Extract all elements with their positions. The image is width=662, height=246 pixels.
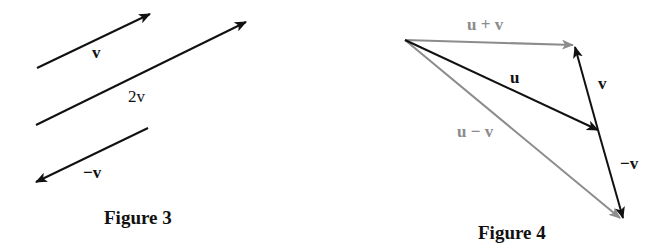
vector-v-arrow-fig4 [575,47,598,130]
figure-4 [405,40,623,218]
vector-2v-arrow [36,22,246,125]
vector-u-minus-v-arrow [405,40,620,218]
label-u: u [510,69,519,86]
label-neg-v-fig4: −v [620,155,638,172]
label-u-minus-v: u − v [457,123,493,140]
label-u-plus-v: u + v [467,16,503,33]
label-neg-v: −v [83,164,101,181]
vector-u-plus-v-arrow [405,40,573,45]
label-v-fig4: v [598,75,607,92]
label-v: v [92,44,101,61]
figure-3-caption: Figure 3 [104,208,172,227]
vector-diagrams [0,0,662,246]
vector-neg-v-arrow-fig4 [598,130,623,218]
label-2v: 2v [128,88,145,105]
figure-4-caption: Figure 4 [478,223,546,242]
vector-u-arrow [405,40,598,130]
